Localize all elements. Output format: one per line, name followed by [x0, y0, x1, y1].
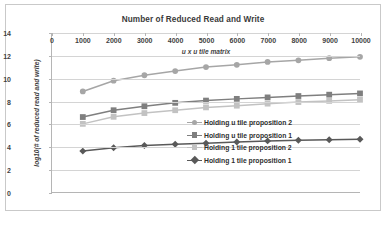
y-axis-tick-label: 6 — [0, 121, 11, 128]
data-point — [142, 103, 148, 109]
chart-screenshot: Number of Reduced Read and Write log10(#… — [0, 0, 392, 225]
x-axis-tick-mark — [207, 33, 208, 36]
legend-marker-icon — [187, 157, 202, 164]
data-point — [357, 136, 364, 143]
x-axis-tick-label: 8000 — [291, 37, 307, 44]
data-point — [203, 98, 209, 104]
data-point — [265, 59, 271, 65]
x-axis-tick-mark — [83, 33, 84, 36]
x-axis-tick-mark — [268, 33, 269, 36]
data-point — [357, 91, 363, 97]
data-point — [111, 107, 117, 113]
y-axis-tick-mark — [49, 124, 52, 125]
x-axis-tick-mark — [330, 33, 331, 36]
x-axis-label: u x u tile matrix — [52, 48, 360, 55]
chart-title: Number of Reduced Read and Write — [6, 15, 380, 24]
x-axis-tick-label: 4000 — [168, 37, 184, 44]
data-point — [80, 89, 86, 95]
data-point — [326, 92, 332, 98]
x-axis-tick-mark — [52, 33, 53, 36]
data-point — [80, 114, 86, 120]
data-point — [326, 136, 333, 143]
y-axis-tick-label: 8 — [0, 98, 11, 105]
data-point — [203, 64, 209, 70]
data-point — [234, 103, 240, 109]
data-point — [111, 114, 117, 120]
legend-item[interactable]: Holding u tile proposition 1 — [187, 132, 292, 139]
data-point — [295, 137, 302, 144]
data-point — [296, 57, 302, 63]
y-axis-tick-label: 12 — [0, 52, 11, 59]
x-axis-tick-mark — [114, 33, 115, 36]
chart-frame: Number of Reduced Read and Write log10(#… — [5, 4, 381, 211]
y-axis-tick-mark — [49, 79, 52, 80]
y-axis-tick-mark — [49, 102, 52, 103]
gridline — [52, 102, 360, 103]
legend-item[interactable]: Holding u tile proposition 2 — [187, 119, 292, 126]
gridline — [52, 170, 360, 171]
y-axis-tick-label: 2 — [0, 167, 11, 174]
y-axis-tick-mark — [49, 193, 52, 194]
x-axis-tick-mark — [176, 33, 177, 36]
y-axis-tick-mark — [49, 170, 52, 171]
x-axis-tick-mark — [299, 33, 300, 36]
series-0 — [80, 54, 363, 94]
legend-marker-icon — [187, 119, 202, 126]
y-axis-label: log10(# of reduced read and write) — [33, 59, 40, 166]
data-point — [79, 148, 86, 155]
legend-item[interactable]: Holding 1 tile proposition 2 — [187, 144, 292, 151]
data-point — [265, 95, 271, 101]
series-line — [83, 57, 360, 92]
gridline — [52, 79, 360, 80]
y-axis-tick-mark — [49, 56, 52, 57]
x-axis-tick-label: 0 — [50, 37, 54, 44]
plot-area: log10(# of reduced read and write) u x u… — [51, 33, 360, 193]
y-axis-tick-label: 10 — [0, 75, 11, 82]
data-point — [172, 107, 178, 113]
x-axis-tick-label: 9000 — [322, 37, 338, 44]
x-axis-tick-label: 2000 — [106, 37, 122, 44]
legend-marker-icon — [187, 132, 202, 139]
x-axis-tick-mark — [237, 33, 238, 36]
data-point — [142, 110, 148, 116]
data-point — [203, 105, 209, 111]
x-axis-tick-mark — [361, 33, 362, 36]
y-axis-tick-label: 14 — [0, 30, 11, 37]
x-axis-tick-label: 5000 — [199, 37, 215, 44]
gridline — [52, 56, 360, 57]
y-axis-tick-label: 0 — [0, 190, 11, 197]
series-line — [83, 93, 360, 117]
data-point — [296, 93, 302, 99]
x-axis-tick-label: 7000 — [261, 37, 277, 44]
y-axis-tick-label: 4 — [0, 144, 11, 151]
data-point — [142, 72, 148, 78]
y-axis-tick-mark — [49, 147, 52, 148]
legend-label: Holding u tile proposition 1 — [204, 132, 292, 139]
data-point — [172, 68, 178, 74]
x-axis-tick-label: 10000 — [351, 37, 370, 44]
legend-label: Holding 1 tile proposition 2 — [204, 144, 292, 151]
legend-label: Holding 1 tile proposition 1 — [204, 157, 292, 164]
legend-item[interactable]: Holding 1 tile proposition 1 — [187, 157, 292, 164]
x-axis-tick-mark — [145, 33, 146, 36]
plot-inner — [52, 33, 360, 192]
series-layer — [52, 33, 360, 192]
x-axis-tick-label: 1000 — [75, 37, 91, 44]
chart-legend: Holding u tile proposition 2Holding u ti… — [187, 119, 292, 164]
data-point — [234, 62, 240, 68]
legend-label: Holding u tile proposition 2 — [204, 119, 292, 126]
x-axis-tick-label: 6000 — [230, 37, 246, 44]
x-axis-tick-label: 3000 — [137, 37, 153, 44]
legend-marker-icon — [187, 144, 202, 151]
